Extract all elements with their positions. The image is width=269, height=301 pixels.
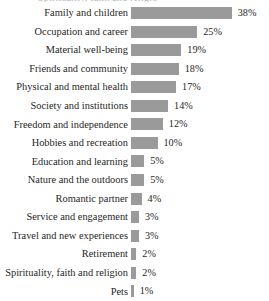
bar-row: Education and learning5%: [0, 152, 269, 171]
bar: [131, 267, 136, 279]
category-label: Romantic partner: [0, 193, 128, 205]
value-label: 5%: [150, 155, 164, 167]
bar: [131, 26, 197, 38]
bar-row: Physical and mental health17%: [0, 78, 269, 97]
bar: [131, 137, 158, 149]
bar: [131, 211, 139, 223]
bar-row: Nature and the outdoors5%: [0, 171, 269, 190]
bar-row: Family and children38%: [0, 4, 269, 23]
bar-row: Travel and new experiences3%: [0, 227, 269, 246]
bar-and-value: 38%: [131, 7, 256, 19]
bar-row: Hobbies and recreation10%: [0, 134, 269, 153]
value-label: 2%: [142, 267, 156, 279]
bar-row: Pets1%: [0, 282, 269, 301]
value-label: 2%: [142, 248, 156, 260]
value-label: 1%: [140, 285, 154, 297]
category-label: Service and engagement: [0, 211, 128, 223]
bar-and-value: 12%: [131, 118, 187, 130]
category-label: Hobbies and recreation: [0, 137, 128, 149]
bar: [131, 155, 144, 167]
bar: [131, 230, 139, 242]
bar-and-value: 17%: [131, 81, 201, 93]
value-label: 14%: [174, 100, 193, 112]
bar: [131, 63, 179, 75]
value-label: 10%: [164, 137, 183, 149]
category-label: Society and institutions: [0, 100, 128, 112]
value-label: 5%: [150, 174, 164, 186]
bar-row: Freedom and independence12%: [0, 115, 269, 134]
bar-row: Retirement2%: [0, 245, 269, 264]
bar-and-value: 2%: [131, 267, 156, 279]
value-label: 25%: [203, 26, 222, 38]
bar-row: Occupation and career25%: [0, 23, 269, 42]
category-label: Pets: [0, 286, 128, 298]
bar-and-value: 10%: [131, 137, 182, 149]
bar: [131, 285, 134, 297]
bar-row: Romantic partner4%: [0, 190, 269, 209]
category-label: Friends and community: [0, 63, 128, 75]
bar: [131, 81, 176, 93]
bar: [131, 248, 136, 260]
bar-and-value: 4%: [131, 193, 161, 205]
bar-and-value: 2%: [131, 248, 156, 260]
bar: [131, 193, 142, 205]
value-label: 38%: [238, 7, 257, 19]
bar-row: Spirituality, faith and religion2%: [0, 264, 269, 283]
value-label: 3%: [145, 230, 159, 242]
bar-and-value: 14%: [131, 100, 193, 112]
value-label: 17%: [182, 81, 201, 93]
category-label: Family and children: [0, 7, 128, 19]
bar-row: Friends and community18%: [0, 60, 269, 79]
category-label: Retirement: [0, 248, 128, 260]
value-label: 4%: [148, 193, 162, 205]
bar: [131, 100, 168, 112]
bar: [131, 44, 181, 56]
bar: [131, 118, 163, 130]
value-label: 3%: [145, 211, 159, 223]
category-label: Physical and mental health: [0, 81, 128, 93]
bar-row: Society and institutions14%: [0, 97, 269, 116]
bar-row: Service and engagement3%: [0, 208, 269, 227]
bar: [131, 7, 232, 19]
bar-and-value: 19%: [131, 44, 206, 56]
category-label: Spirituality, faith and religion: [0, 267, 128, 279]
bar-and-value: 1%: [131, 285, 153, 297]
category-label: Freedom and independence: [0, 119, 128, 131]
category-label: Occupation and career: [0, 26, 128, 38]
bar-and-value: 5%: [131, 155, 164, 167]
category-label: Material well-being: [0, 44, 128, 56]
bar-and-value: 25%: [131, 26, 222, 38]
bar-row: Material well-being19%: [0, 41, 269, 60]
value-label: 18%: [185, 63, 204, 75]
bar-and-value: 3%: [131, 230, 159, 242]
category-label: Nature and the outdoors: [0, 174, 128, 186]
bar-and-value: 3%: [131, 211, 159, 223]
bar-and-value: 18%: [131, 63, 203, 75]
category-label: Education and learning: [0, 156, 128, 168]
bar: [131, 174, 144, 186]
bar-and-value: 5%: [131, 174, 164, 186]
category-label: Travel and new experiences: [0, 230, 128, 242]
value-label: 19%: [187, 44, 206, 56]
value-label: 12%: [169, 118, 188, 130]
